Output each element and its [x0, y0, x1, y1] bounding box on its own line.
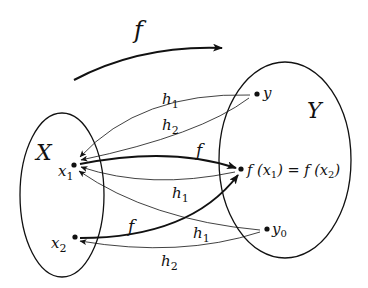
- set-Y-label: Y: [307, 98, 324, 123]
- edge-x1-fx-f: [80, 156, 236, 168]
- label-edge-fx-x1-h1: h1: [172, 184, 189, 205]
- label-x2: x2: [51, 234, 66, 255]
- top-map-label: f: [132, 16, 147, 44]
- point-y0: [264, 226, 269, 231]
- label-x1: x1: [58, 162, 73, 183]
- label-edge-y-x1-h2: h2: [162, 116, 179, 137]
- label-fx: f (x1) = f (x2): [246, 162, 340, 180]
- label-edge-y0-x1-h1: h1: [193, 224, 210, 245]
- point-fx: [238, 166, 243, 171]
- edge-fx-x1-h1: [81, 167, 235, 180]
- point-x2: [72, 234, 77, 239]
- function-diagram: f X Y x1 x2 y y0 f (x1) = f (x2) h1 h2 f…: [0, 0, 368, 288]
- label-y: y: [262, 84, 272, 102]
- set-X-label: X: [34, 140, 53, 165]
- point-x1: [71, 162, 76, 167]
- label-edge-x1-fx-f: f: [194, 140, 205, 160]
- label-edge-y0-x2-h2: h2: [161, 252, 178, 273]
- label-y0: y0: [271, 220, 287, 239]
- label-edge-y-x1-h1: h1: [162, 90, 179, 111]
- edge-y0-x2-h2: [80, 232, 260, 248]
- top-map-arrow: [74, 48, 222, 80]
- point-y: [254, 91, 259, 96]
